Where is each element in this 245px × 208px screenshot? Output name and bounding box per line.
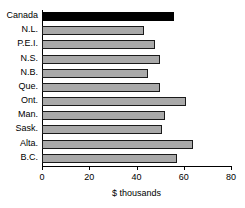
bar-row: Ont. bbox=[42, 95, 231, 109]
category-label: P.E.I. bbox=[17, 37, 38, 49]
category-label: Ont. bbox=[21, 94, 38, 106]
tick-mark bbox=[231, 166, 232, 170]
category-label: Que. bbox=[18, 80, 38, 92]
bar-row: Canada bbox=[42, 10, 231, 24]
tick-label: 60 bbox=[169, 172, 199, 183]
bar bbox=[42, 83, 160, 92]
tick-mark bbox=[137, 166, 138, 170]
bar-row: N.B. bbox=[42, 67, 231, 81]
bar bbox=[42, 140, 193, 149]
bar-row: Que. bbox=[42, 81, 231, 95]
bar-row: Alta. bbox=[42, 138, 231, 152]
category-label: Canada bbox=[6, 9, 38, 21]
bar bbox=[42, 125, 162, 134]
bar bbox=[42, 69, 148, 78]
tick-mark bbox=[184, 166, 185, 170]
category-label: Sask. bbox=[15, 122, 38, 134]
bar bbox=[42, 55, 160, 64]
tick-mark bbox=[42, 166, 43, 170]
tick-label: 0 bbox=[27, 172, 57, 183]
bar-row: N.S. bbox=[42, 53, 231, 67]
bar bbox=[42, 40, 155, 49]
bar-row: B.C. bbox=[42, 152, 231, 166]
category-label: Man. bbox=[18, 108, 38, 120]
bar bbox=[42, 12, 174, 21]
tick-label: 80 bbox=[216, 172, 245, 183]
bar-chart: CanadaN.L.P.E.I.N.S.N.B.Que.Ont.Man.Sask… bbox=[0, 0, 245, 208]
bar bbox=[42, 97, 186, 106]
category-label: N.S. bbox=[20, 52, 38, 64]
tick-mark bbox=[89, 166, 90, 170]
category-label: N.L. bbox=[21, 23, 38, 35]
bar bbox=[42, 154, 177, 163]
bar-row: Man. bbox=[42, 109, 231, 123]
tick-label: 40 bbox=[122, 172, 152, 183]
bar-row: N.L. bbox=[42, 24, 231, 38]
plot-area: CanadaN.L.P.E.I.N.S.N.B.Que.Ont.Man.Sask… bbox=[42, 10, 231, 166]
tick-label: 20 bbox=[74, 172, 104, 183]
bar bbox=[42, 111, 165, 120]
value-axis-title: $ thousands bbox=[42, 188, 231, 199]
bar bbox=[42, 26, 144, 35]
category-label: N.B. bbox=[20, 66, 38, 78]
bar-row: P.E.I. bbox=[42, 38, 231, 52]
category-label: Alta. bbox=[20, 137, 38, 149]
bar-row: Sask. bbox=[42, 123, 231, 137]
category-label: B.C. bbox=[20, 151, 38, 163]
